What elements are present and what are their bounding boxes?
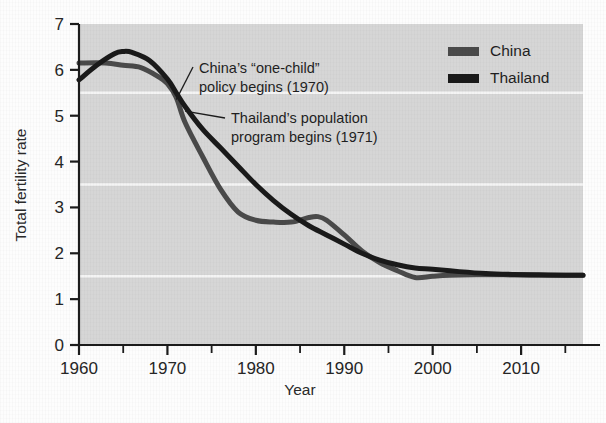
chart-page: 01234567 196019701980199020002010 Year T… <box>0 0 606 423</box>
y-tick-label: 5 <box>55 107 64 126</box>
x-tick-label: 1990 <box>325 359 363 378</box>
annotation-text-china-policy: policy begins (1970) <box>199 79 329 95</box>
x-tick-label: 2000 <box>414 359 452 378</box>
x-tick-label: 1980 <box>237 359 275 378</box>
y-tick-label: 3 <box>55 198 64 217</box>
x-tick-label: 2010 <box>502 359 540 378</box>
y-tick-label: 1 <box>55 290 64 309</box>
legend-label-china: China <box>490 42 531 59</box>
y-axis-ticks: 01234567 <box>55 15 79 355</box>
annotation-text-thailand-program: program begins (1971) <box>231 129 378 145</box>
x-tick-label: 1970 <box>149 359 187 378</box>
legend-swatch-thailand <box>448 74 479 83</box>
fertility-rate-line-chart: 01234567 196019701980199020002010 Year T… <box>0 0 606 423</box>
x-tick-label: 1960 <box>60 359 98 378</box>
annotation-text-thailand-program: Thailand’s population <box>231 110 368 126</box>
x-axis-ticks: 196019701980199020002010 <box>60 345 565 378</box>
x-axis-title: Year <box>284 381 315 398</box>
y-tick-label: 7 <box>55 15 64 34</box>
y-axis-title: Total fertility rate <box>12 129 29 242</box>
legend-label-thailand: Thailand <box>490 69 549 86</box>
y-tick-label: 0 <box>55 336 64 355</box>
y-tick-label: 6 <box>55 61 64 80</box>
y-tick-label: 2 <box>55 244 64 263</box>
annotation-text-china-policy: China’s “one-child” <box>199 60 320 76</box>
legend-swatch-china <box>448 47 479 56</box>
y-tick-label: 4 <box>55 153 64 172</box>
